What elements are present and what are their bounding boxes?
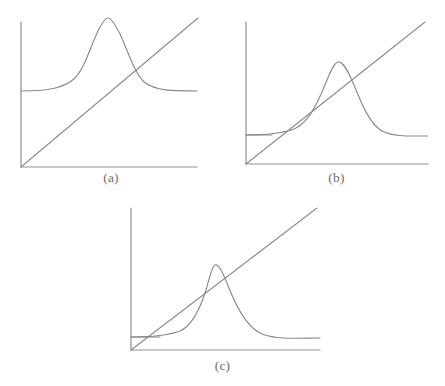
panel-a-caption: (a) (0, 170, 222, 186)
diagonal-line (131, 208, 317, 350)
panel-b: (b) (228, 0, 445, 193)
gaussian-curve (246, 62, 428, 136)
gaussian-curve (131, 265, 320, 338)
panel-a-plot (0, 0, 222, 193)
diagonal-line (21, 18, 198, 167)
panel-a: (a) (0, 0, 222, 193)
panel-b-plot (228, 0, 445, 193)
panel-b-caption: (b) (228, 170, 445, 186)
panel-c: (c) (110, 193, 335, 386)
diagonal-line (246, 22, 425, 164)
panel-c-caption: (c) (110, 358, 335, 374)
figure-root: (a) (b) (c) (0, 0, 445, 386)
gaussian-curve (21, 18, 197, 91)
